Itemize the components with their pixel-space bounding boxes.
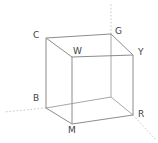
edge-G-Y bbox=[111, 34, 133, 55]
vertex-label-G: G bbox=[115, 27, 122, 36]
cube-wireframe-svg bbox=[0, 0, 158, 143]
edge-B-M bbox=[46, 108, 72, 124]
solid-edge-group bbox=[46, 34, 133, 124]
edge-B-K bbox=[46, 97, 111, 108]
vertex-label-W: W bbox=[73, 47, 82, 56]
edge-R-K bbox=[111, 97, 133, 115]
vertex-label-Y: Y bbox=[138, 48, 144, 57]
edge-C-W bbox=[46, 38, 72, 57]
edge-M-R bbox=[72, 115, 133, 124]
axis-ray-blue bbox=[4, 108, 46, 112]
vertex-label-C: C bbox=[33, 31, 39, 40]
hidden-edge-group bbox=[46, 34, 133, 115]
color-cube-figure: C G W Y B M R bbox=[0, 0, 158, 143]
axis-ray-red bbox=[133, 115, 156, 140]
vertex-label-M: M bbox=[68, 126, 76, 135]
edge-C-G bbox=[46, 34, 111, 38]
vertex-label-B: B bbox=[33, 94, 39, 103]
vertex-label-R: R bbox=[138, 110, 144, 119]
